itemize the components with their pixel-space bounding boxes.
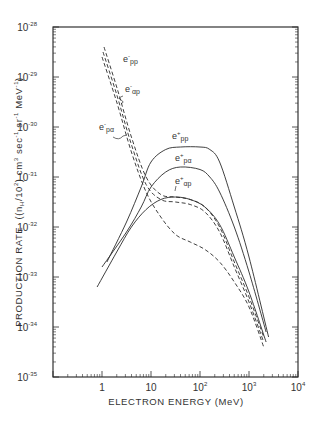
curve-e-pp (107, 147, 269, 337)
y-axis-title-prefix: PRODUCTION RATE (13, 227, 24, 327)
x-axis-tick-labels: 110102103104 (99, 381, 306, 393)
x-axis-ticks (53, 371, 298, 377)
label-e-plus-ap: e+αp (175, 175, 192, 188)
y-axis-units: MeV (13, 87, 24, 112)
curve-e-p (97, 197, 266, 342)
y-axis-units: ) (13, 77, 24, 81)
leader-e-minus-ap (119, 96, 123, 104)
x-tick-label: 102 (193, 381, 208, 393)
y-axis-units: /10 (13, 186, 24, 201)
leader-e-plus-ap (175, 186, 176, 191)
x-tick-label: 103 (242, 381, 257, 393)
y-tick-label: 10-35 (17, 371, 37, 383)
label-e-plus-pa: e+pα (175, 152, 191, 165)
x-tick-label: 10 (145, 382, 157, 393)
y-axis-units: sr (13, 119, 24, 131)
leader-e-minus-pa (113, 135, 127, 139)
y-axis-units: ((n (13, 206, 24, 219)
x-tick-label: 104 (291, 381, 306, 393)
label-e-minus-pp: e-pp (123, 53, 138, 66)
label-e-minus-pa: e-pα (99, 121, 114, 134)
data-curves (97, 47, 269, 347)
y-axis-units: ) cm (13, 161, 24, 182)
y-axis-title: PRODUCTION RATE ((nH/102) cm3 sec-1 sr-1… (13, 77, 25, 327)
label-e-minus-ap: e-αp (125, 83, 140, 96)
curve-e-p- (102, 167, 266, 332)
x-axis-title: ELECTRON ENERGY (MeV) (108, 396, 243, 407)
y-tick-label: 10-28 (17, 21, 37, 33)
production-rate-chart: 10-2810-2910-3010-3110-3210-3310-3410-35… (0, 0, 318, 429)
label-e-plus-pp: e+pp (172, 130, 188, 143)
x-tick-label: 1 (99, 382, 105, 393)
curve-e-p- (102, 57, 264, 347)
y-axis-units: sec (13, 138, 24, 158)
curve-e-p (103, 52, 264, 342)
